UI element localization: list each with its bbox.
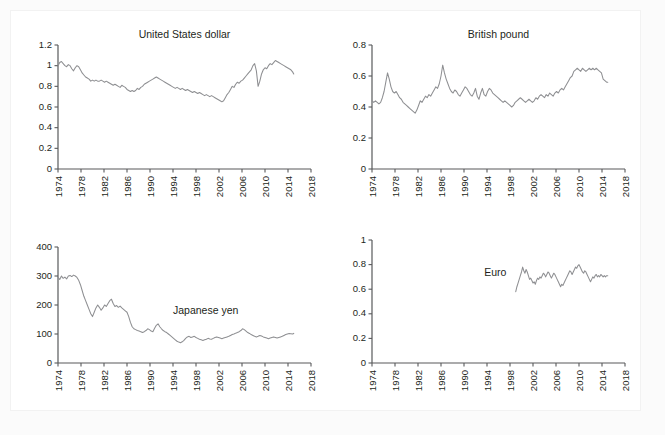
figure-panel: 00.20.40.60.811.219741978198219861990199… [11, 11, 640, 410]
chart-title: British pound [468, 28, 529, 40]
y-tick-label: 300 [36, 270, 52, 281]
x-tick-label: 1986 [436, 370, 447, 391]
plot-gbp: 00.20.40.60.8197419781982198619901994199… [327, 11, 640, 211]
x-tick-label: 2006 [237, 176, 248, 197]
series-line [372, 65, 608, 113]
x-tick-label: 2014 [283, 370, 294, 391]
series-line [58, 61, 294, 102]
x-tick-label: 2006 [551, 370, 562, 391]
x-tick-label: 1998 [505, 370, 516, 391]
x-tick-label: 1990 [145, 370, 156, 391]
y-tick-label: 0.6 [353, 283, 366, 294]
x-tick-label: 1994 [482, 370, 493, 391]
y-tick-label: 0 [47, 163, 52, 174]
y-tick-label: 0.2 [353, 332, 366, 343]
x-tick-label: 2010 [260, 370, 271, 391]
x-tick-label: 1978 [390, 176, 401, 197]
chart-title: United States dollar [139, 28, 231, 40]
x-tick-label: 2014 [283, 176, 294, 197]
x-tick-label: 2018 [620, 370, 631, 391]
x-tick-label: 2014 [597, 370, 608, 391]
x-tick-label: 1986 [122, 370, 133, 391]
x-tick-label: 2002 [214, 370, 225, 391]
x-tick-label: 1994 [168, 370, 179, 391]
x-tick-label: 1994 [168, 176, 179, 197]
x-tick-label: 1986 [436, 176, 447, 197]
y-tick-label: 0.8 [39, 80, 52, 91]
y-tick-label: 0.2 [353, 132, 366, 143]
y-tick-label: 0.4 [353, 307, 366, 318]
x-tick-label: 1978 [76, 176, 87, 197]
x-tick-label: 1974 [367, 370, 378, 391]
x-tick-label: 1978 [390, 370, 401, 391]
y-tick-label: 0.4 [39, 121, 52, 132]
x-tick-label: 1982 [413, 176, 424, 197]
x-tick-label: 2002 [528, 176, 539, 197]
plot-usd: 00.20.40.60.811.219741978198219861990199… [11, 11, 326, 211]
chart-title: Euro [484, 266, 506, 278]
x-tick-label: 1998 [191, 370, 202, 391]
x-tick-label: 1974 [367, 176, 378, 197]
y-tick-label: 1.2 [39, 39, 52, 50]
x-tick-label: 2002 [214, 176, 225, 197]
y-tick-label: 1 [361, 234, 366, 245]
plot-eur: 00.20.40.60.8119741978198219861990199419… [327, 211, 640, 410]
y-tick-label: 200 [36, 299, 52, 310]
x-tick-label: 2018 [620, 176, 631, 197]
x-tick-label: 2014 [597, 176, 608, 197]
x-tick-label: 1982 [99, 370, 110, 391]
x-tick-label: 1986 [122, 176, 133, 197]
y-tick-label: 0.8 [353, 39, 366, 50]
x-tick-label: 2010 [574, 176, 585, 197]
x-tick-label: 1990 [459, 370, 470, 391]
x-tick-label: 1998 [191, 176, 202, 197]
chart-japanese-yen: 0100200300400197419781982198619901994199… [11, 211, 326, 410]
x-tick-label: 1978 [76, 370, 87, 391]
x-tick-label: 1974 [53, 176, 64, 197]
x-tick-label: 1990 [145, 176, 156, 197]
y-tick-label: 400 [36, 241, 52, 252]
figure-container: 00.20.40.60.811.219741978198219861990199… [0, 0, 665, 435]
y-tick-label: 100 [36, 328, 52, 339]
x-tick-label: 1982 [413, 370, 424, 391]
chart-title: Japanese yen [173, 304, 239, 316]
chart-euro: 00.20.40.60.8119741978198219861990199419… [327, 211, 640, 410]
y-tick-label: 0 [47, 357, 52, 368]
x-tick-label: 1982 [99, 176, 110, 197]
y-tick-label: 1 [47, 59, 52, 70]
x-tick-label: 1974 [53, 370, 64, 391]
y-tick-label: 0.4 [353, 101, 366, 112]
y-tick-label: 0.6 [39, 101, 52, 112]
chart-british-pound: 00.20.40.60.8197419781982198619901994199… [327, 11, 640, 211]
x-tick-label: 2018 [306, 370, 317, 391]
x-tick-label: 2006 [551, 176, 562, 197]
series-line [516, 265, 608, 292]
x-tick-label: 2010 [260, 176, 271, 197]
y-tick-label: 0 [361, 357, 366, 368]
y-tick-label: 0.8 [353, 258, 366, 269]
x-tick-label: 2018 [306, 176, 317, 197]
x-tick-label: 2006 [237, 370, 248, 391]
x-tick-label: 1990 [459, 176, 470, 197]
x-tick-label: 2010 [574, 370, 585, 391]
x-tick-label: 1998 [505, 176, 516, 197]
y-tick-label: 0.6 [353, 70, 366, 81]
x-tick-label: 2002 [528, 370, 539, 391]
x-tick-label: 1994 [482, 176, 493, 197]
y-tick-label: 0 [361, 163, 366, 174]
y-tick-label: 0.2 [39, 142, 52, 153]
chart-united-states-dollar: 00.20.40.60.811.219741978198219861990199… [11, 11, 326, 211]
plot-jpy: 0100200300400197419781982198619901994199… [11, 211, 326, 410]
